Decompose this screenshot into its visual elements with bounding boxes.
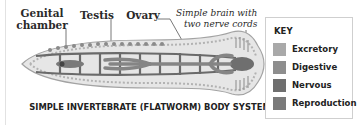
swatch-reproduction [273, 97, 286, 110]
key-item-digestive: Digestive [273, 60, 337, 74]
key-label-digestive: Digestive [292, 62, 337, 72]
key-label-nervous: Nervous [292, 80, 332, 90]
key-item-reproduction: Reproduction [273, 96, 356, 110]
key-label-excretory: Excretory [292, 44, 338, 54]
key-item-nervous: Nervous [273, 78, 332, 92]
diagram-caption: SIMPLE INVERTEBRATE (FLATWORM) BODY SYST… [28, 102, 272, 112]
swatch-digestive [273, 61, 286, 74]
key-label-reproduction: Reproduction [292, 98, 356, 108]
key-title: KEY [274, 26, 293, 36]
swatch-nervous [273, 79, 286, 92]
key-item-excretory: Excretory [273, 42, 338, 56]
legend-key: KEY Excretory Digestive Nervous Reproduc… [265, 17, 353, 119]
brain [230, 57, 254, 71]
swatch-excretory [273, 43, 286, 56]
reproductive-system [56, 60, 84, 68]
